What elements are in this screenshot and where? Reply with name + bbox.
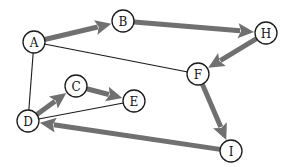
node-c: C [65,75,87,97]
edge-a-f [34,42,198,74]
node-label: A [29,36,39,50]
arrow-h-to-f [208,39,256,68]
node-label: C [71,80,80,94]
arrow-c-to-e [87,87,123,102]
arrow-a-to-b [45,20,112,39]
undirected-edges [28,42,198,121]
node-label: D [23,115,33,129]
arrow-i-to-d [40,118,220,150]
arrow-b-to-h [134,22,254,38]
arrow-d-to-c [37,93,66,114]
node-label: H [261,27,271,41]
node-label: F [194,68,202,82]
node-b: B [112,10,134,32]
node-d: D [17,110,39,132]
edge-a-d [28,42,34,121]
graph-diagram: ABHFCEDI [0,0,293,167]
node-label: I [229,145,234,159]
arrow-f-to-i [202,84,227,140]
node-e: E [123,90,145,112]
node-i: I [220,140,242,162]
node-label: B [119,15,128,29]
node-f: F [187,63,209,85]
node-a: A [23,31,45,53]
node-label: E [130,95,139,109]
node-h: H [255,22,277,44]
